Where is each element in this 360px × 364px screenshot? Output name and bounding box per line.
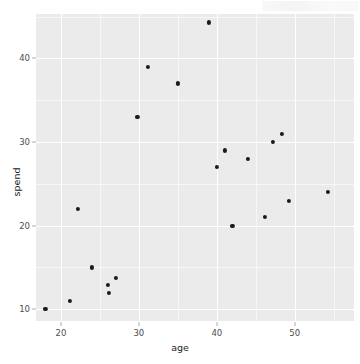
y-axis-tick-mark: [32, 225, 36, 226]
data-point: [113, 275, 117, 279]
x-axis-tick-mark: [138, 322, 139, 326]
data-point: [279, 132, 283, 136]
scatter-plot-figure: 1020304020304050 age spend: [0, 0, 360, 364]
gridline-vertical-major: [61, 14, 62, 321]
gridline-horizontal-major: [36, 309, 354, 310]
data-point: [223, 148, 227, 152]
y-axis-tick-label: 10: [19, 304, 30, 314]
gridline-horizontal-minor: [36, 184, 354, 185]
x-axis-tick-label: 20: [56, 328, 67, 338]
x-axis-tick-label: 30: [133, 328, 144, 338]
gridline-horizontal-minor: [36, 17, 354, 18]
data-point: [176, 81, 180, 85]
y-axis-tick-label: 30: [19, 137, 30, 147]
y-axis-tick-mark: [32, 58, 36, 59]
data-point: [325, 190, 329, 194]
x-axis-tick-mark: [294, 322, 295, 326]
x-axis-title: age: [0, 342, 360, 353]
data-point: [230, 224, 234, 228]
x-axis-tick-label: 50: [289, 328, 300, 338]
data-point: [90, 265, 94, 269]
gridline-vertical-major: [139, 14, 140, 321]
data-point: [106, 283, 110, 287]
data-point: [43, 307, 47, 311]
data-point: [107, 290, 111, 294]
data-point: [76, 207, 80, 211]
x-axis-tick-mark: [216, 322, 217, 326]
x-axis-tick-mark: [60, 322, 61, 326]
gridline-horizontal-major: [36, 226, 354, 227]
gridline-horizontal-minor: [36, 267, 354, 268]
top-right-artifact: [262, 1, 358, 11]
gridline-vertical-major: [295, 14, 296, 321]
y-axis-tick-label: 40: [19, 53, 30, 63]
gridline-vertical-minor: [100, 14, 101, 321]
data-point: [286, 198, 290, 202]
plot-panel: [36, 14, 354, 321]
y-axis-title: spend: [11, 168, 22, 197]
y-axis-tick-mark: [32, 309, 36, 310]
gridline-horizontal-minor: [36, 100, 354, 101]
gridline-vertical-minor: [178, 14, 179, 321]
y-axis-tick-mark: [32, 141, 36, 142]
data-point: [246, 157, 250, 161]
data-point: [215, 165, 219, 169]
data-point: [271, 140, 275, 144]
data-point: [207, 20, 211, 24]
data-point: [68, 299, 72, 303]
gridline-horizontal-major: [36, 58, 354, 59]
gridline-vertical-minor: [334, 14, 335, 321]
x-axis-tick-label: 40: [211, 328, 222, 338]
gridline-horizontal-major: [36, 142, 354, 143]
data-point: [146, 65, 150, 69]
y-axis-tick-label: 20: [19, 221, 30, 231]
gridline-vertical-minor: [256, 14, 257, 321]
data-point: [263, 215, 267, 219]
